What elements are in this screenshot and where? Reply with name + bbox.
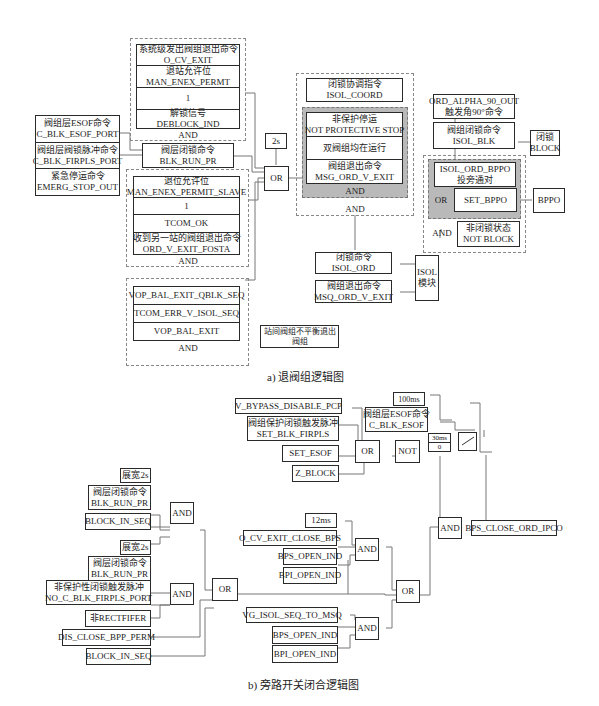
z-block-label: Z_BLOCK bbox=[295, 468, 336, 479]
v-bypass-disable-pcp-label: V_BYPASS_DISABLE_PCP bbox=[235, 401, 342, 412]
blk-run-pr-b2-cn: 阀层闭锁命令 bbox=[93, 558, 147, 569]
station-note-line1: 站间阀组不平衡退出 bbox=[264, 327, 336, 337]
bps-open-ind-label-1: BPS_OPEN_IND bbox=[278, 551, 343, 562]
isol-coord-cn: 闭锁协调指令 bbox=[328, 79, 382, 90]
ord-alpha-90-out-signal: ORD_ALPHA_90_OUT 触发角90°命令 bbox=[433, 94, 515, 119]
bps-open-ind-signal-1: BPS_OPEN_IND bbox=[283, 548, 337, 565]
c-blk-firpls-port-cn: 阀组层阀锁脉冲命令 bbox=[37, 145, 118, 156]
delay-100ms-block: 100ms bbox=[393, 392, 425, 406]
and-gate-left-2: AND bbox=[170, 583, 194, 605]
timer-0: 0 bbox=[428, 442, 451, 452]
tcom-err-v-isol-seq-signal: TCOM_ERR_V_ISOL_SEQ bbox=[133, 304, 240, 323]
msq-ord-v-exit-en: MSQ_ORD_V_EXIT bbox=[314, 292, 393, 303]
not-block-signal: 非闭锁状态 NOT BLOCK bbox=[457, 221, 520, 247]
o-cv-exit-signal: 系统级发出阀组退出命令 O_CV_EXIT bbox=[136, 44, 240, 66]
and-gate-final-label: AND bbox=[440, 523, 460, 534]
delay-100ms-label: 100ms bbox=[398, 394, 419, 405]
or-gate-mid: OR bbox=[396, 580, 420, 603]
ord-alpha-90-out-cn: 触发角90°命令 bbox=[445, 107, 503, 118]
msg-ord-v-exit-signal: 阀组退出命令 MSG_ORD_V_EXIT bbox=[306, 159, 403, 184]
isol-module-line1: ISOL bbox=[417, 267, 437, 278]
deblock-ind-signal: 解锁信号 DEBLOCK_IND bbox=[136, 109, 240, 129]
group1-and-label: AND bbox=[170, 130, 206, 141]
and-gate-left-2-label: AND bbox=[172, 589, 192, 600]
caption-a: a) 退阀组逻辑图 bbox=[267, 368, 344, 384]
blk-run-pr-signal-b1: 阀层闭锁命令 BLK_RUN_PR bbox=[88, 485, 151, 510]
not-protective-stop-signal: 非保护停运 NOT PROTECTIVE STOP bbox=[306, 112, 403, 137]
bps-open-ind-label-2: BPS_OPEN_IND bbox=[273, 630, 338, 641]
o-cv-exit-close-bps-label: O_CV_EXIT_CLOSE_BPS bbox=[239, 533, 341, 544]
c-blk-esof-port-en: C_BLK_ESOF_PORT bbox=[37, 129, 119, 140]
and-gate-mid-1: AND bbox=[355, 538, 379, 561]
center-outer-and-label: AND bbox=[337, 204, 373, 215]
caption-b: b) 旁路开关闭合逻辑图 bbox=[248, 676, 359, 692]
no-c-blk-firpls-port-cn: 非保护性闭锁触发脉冲 bbox=[54, 582, 144, 593]
no-c-blk-firpls-port-en: NO_C_BLK_FIRPLS_PORT bbox=[45, 593, 152, 604]
man-enex-permt-signal: 退站允许位 MAN_ENEX_PERMT bbox=[136, 65, 240, 88]
delay-2s-block: 2s bbox=[265, 133, 287, 149]
bpi-open-ind-label-1: BPI_OPEN_IND bbox=[279, 570, 342, 581]
block-in-seq-label-1: BLOCK_IN_SEQ bbox=[85, 516, 151, 527]
both-valve-groups-running-signal: 双阀组均在运行 bbox=[306, 136, 403, 160]
station-note-line2: 阀组 bbox=[292, 337, 308, 347]
isol-blk-signal: 阀组闭锁命令 ISOL_BLK bbox=[433, 122, 515, 149]
stretch-2s-block-1: 展宽2s bbox=[120, 468, 151, 483]
deblock-ind-cn: 解锁信号 bbox=[170, 108, 206, 119]
o-cv-exit-cn: 系统级发出阀组退出命令 bbox=[139, 44, 238, 55]
vop-bal-exit-signal: VOP_BAL_EXIT bbox=[133, 322, 240, 341]
blk-run-pr-cn: 阀层闭锁命令 bbox=[161, 145, 215, 156]
or-gate-b1-label: OR bbox=[361, 446, 374, 457]
vop-bal-exit-qblk-seq-label: VOP_BAL_EXIT_QBLK_SEQ bbox=[129, 290, 245, 301]
not-protective-stop-en: NOT PROTECTIVE STOP bbox=[305, 125, 405, 136]
ord-v-exit-fosta-cn: 收到另一站的阀组退出命令 bbox=[133, 233, 241, 244]
bps-open-ind-signal-2: BPS_OPEN_IND bbox=[272, 626, 338, 644]
bpi-open-ind-signal-2: BPI_OPEN_IND bbox=[272, 645, 338, 663]
constant-one-signal: 1 bbox=[136, 87, 240, 110]
bpi-open-ind-signal-1: BPI_OPEN_IND bbox=[283, 567, 337, 584]
switch-icon bbox=[460, 434, 476, 450]
set-blk-firpls-signal: 阀组保护闭锁触发脉冲 SET_BLK_FIRPLS bbox=[247, 416, 339, 441]
no-c-blk-firpls-port-signal: 非保护性闭锁触发脉冲 NO_C_BLK_FIRPLS_PORT bbox=[46, 580, 151, 605]
emerg-stop-out-en: EMERG_STOP_OUT bbox=[37, 182, 118, 193]
isol-ord-en: ISOL_ORD bbox=[332, 263, 376, 274]
bps-close-ord-ipco-label: BPS_CLOSE_ORD_IPCO bbox=[465, 523, 563, 534]
isol-blk-en: ISOL_BLK bbox=[453, 136, 496, 147]
man-enex-permt-cn: 退站允许位 bbox=[166, 66, 211, 77]
or-gate-left-label: OR bbox=[219, 584, 232, 595]
c-blk-firpls-port-en: C_BLK_FIRPLS_PORT bbox=[33, 156, 122, 167]
not-protective-stop-cn: 非保护停运 bbox=[332, 114, 377, 125]
center-grey-and-label: AND bbox=[337, 186, 373, 197]
or-gate-mid-label: OR bbox=[402, 586, 415, 597]
emerg-stop-out-signal: 紧急停运命令 EMERG_STOP_OUT bbox=[35, 168, 120, 196]
msg-ord-v-exit-cn: 阀组退出命令 bbox=[328, 161, 382, 172]
isol-ord-signal: 闭锁命令 ISOL_ORD bbox=[315, 252, 392, 274]
isol-ord-bppo-en: ISOL_ORD_BPPO bbox=[440, 164, 511, 175]
or-gate-b1: OR bbox=[355, 440, 380, 463]
isol-module-line2: 模块 bbox=[418, 278, 436, 289]
ord-alpha-90-out-en: ORD_ALPHA_90_OUT bbox=[429, 96, 519, 107]
timer-30ms-label: 30ms bbox=[432, 434, 447, 442]
blk-run-pr-signal-b2: 阀层闭锁命令 BLK_RUN_PR bbox=[88, 556, 151, 581]
msg-ord-v-exit-en: MSG_ORD_V_EXIT bbox=[315, 172, 394, 183]
non-rectifier-label: 非RECTFIFER bbox=[90, 613, 147, 624]
c-blk-esof-en: C_BLK_ESOF bbox=[369, 420, 424, 431]
vg-isol-seq-to-msq-label: VG_ISOL_SEQ_TO_MSQ bbox=[242, 610, 341, 621]
msq-ord-v-exit-signal: 阀组退出命令 MSQ_ORD_V_EXIT bbox=[315, 280, 392, 303]
blk-run-pr-b1-en: BLK_RUN_PR bbox=[91, 498, 148, 509]
tcom-ok-signal: TCOM_OK bbox=[133, 214, 240, 233]
dis-close-bpp-perm-signal: DIS_CLOSE_BPP_PERM bbox=[62, 629, 151, 646]
group2-and-label: AND bbox=[170, 256, 206, 267]
and-gate-left-1: AND bbox=[170, 502, 194, 524]
bppo-output: BPPO bbox=[533, 188, 565, 213]
dis-close-bpp-perm-label: DIS_CLOSE_BPP_PERM bbox=[58, 632, 155, 643]
bpi-open-ind-label-2: BPI_OPEN_IND bbox=[274, 649, 337, 660]
deblock-ind-en: DEBLOCK_IND bbox=[157, 119, 220, 130]
c-blk-esof-port-cn: 阀组层ESOF命令 bbox=[44, 118, 111, 129]
bps-close-ord-ipco-output: BPS_CLOSE_ORD_IPCO bbox=[471, 520, 557, 536]
and-gate-mid-1-label: AND bbox=[357, 544, 377, 555]
constant-one-value: 1 bbox=[186, 93, 191, 104]
not-block-cn: 非闭锁状态 bbox=[466, 223, 511, 234]
station-unbalance-note: 站间阀组不平衡退出 阀组 bbox=[260, 325, 339, 348]
not-block-en: NOT BLOCK bbox=[463, 234, 514, 245]
block-in-seq-signal-1: BLOCK_IN_SEQ bbox=[85, 513, 151, 530]
